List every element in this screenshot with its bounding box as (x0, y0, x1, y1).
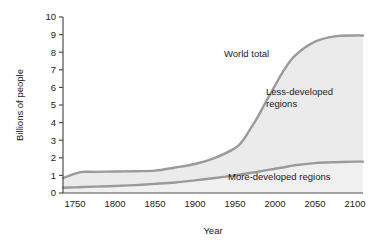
x-tick-label-1800: 1800 (104, 198, 125, 209)
x-tick-label-1750: 1750 (64, 198, 85, 209)
y-tick-label-9: 9 (51, 29, 56, 40)
x-tick-label-1900: 1900 (184, 198, 205, 209)
population-growth-chart: 17501800185019001950200020502100 0123456… (0, 0, 379, 241)
y-axis-tick-labels: 012345678910 (45, 11, 56, 198)
y-tick-label-8: 8 (51, 47, 56, 58)
y-tick-label-6: 6 (51, 82, 56, 93)
y-tick-label-3: 3 (51, 135, 56, 146)
y-tick-label-7: 7 (51, 64, 56, 75)
x-tick-label-2050: 2050 (304, 198, 325, 209)
y-tick-label-10: 10 (45, 11, 56, 22)
y-tick-label-1: 1 (51, 170, 56, 181)
chart-canvas: 17501800185019001950200020502100 0123456… (0, 0, 379, 241)
y-axis-title: Billions of people (14, 69, 25, 141)
annotation-more-developed: More-developed regions (228, 171, 331, 182)
annotation-less-developed-line2: regions (266, 98, 297, 109)
y-tick-label-2: 2 (51, 152, 56, 163)
x-tick-label-1850: 1850 (144, 198, 165, 209)
y-tick-label-0: 0 (51, 187, 56, 198)
x-tick-label-1950: 1950 (224, 198, 245, 209)
y-tick-label-4: 4 (51, 117, 56, 128)
annotation-world-total: World total (224, 48, 269, 59)
x-tick-label-2100: 2100 (344, 198, 365, 209)
x-axis-title: Year (203, 225, 222, 236)
y-tick-label-5: 5 (51, 99, 56, 110)
annotation-less-developed-line1: Less-developed (266, 86, 333, 97)
x-axis-tick-labels: 17501800185019001950200020502100 (64, 198, 365, 209)
x-tick-label-2000: 2000 (264, 198, 285, 209)
